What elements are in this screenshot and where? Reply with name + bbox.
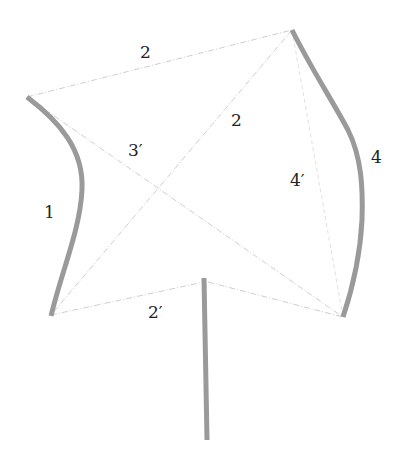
label-left-curve: 1 <box>44 202 55 222</box>
diagonal-topright-bottomleft <box>51 30 292 315</box>
diagram-canvas: 2 3′ 2 4′ 4 1 2′ <box>0 0 411 466</box>
label-right-curve: 4 <box>371 147 382 167</box>
stem-vertical <box>204 278 207 440</box>
diagonal-topleft-bottomright <box>27 97 343 317</box>
label-top-edge: 2 <box>140 42 151 62</box>
edge-top <box>27 30 292 97</box>
label-diagonal-left: 3′ <box>128 140 143 160</box>
edge-bottom-left <box>51 282 204 315</box>
label-bottom-left-edge: 2′ <box>148 302 163 322</box>
label-right-inner: 4′ <box>290 170 305 190</box>
label-diagonal-right: 2 <box>231 110 242 130</box>
edge-bottom-right <box>208 282 343 317</box>
